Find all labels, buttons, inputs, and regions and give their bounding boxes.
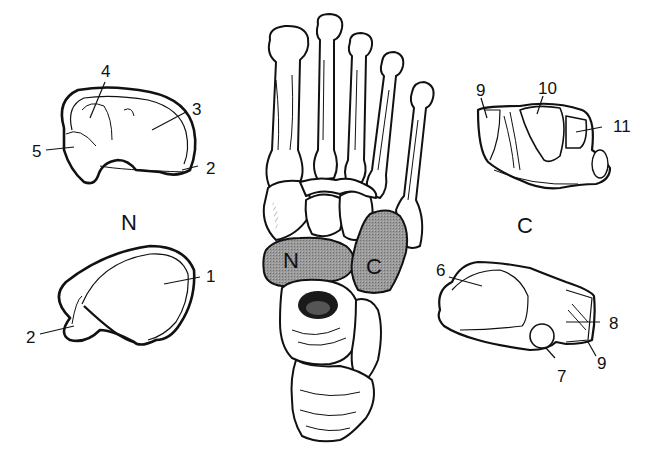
label-9-upper: 9	[476, 82, 485, 99]
cuboid-caption: C	[517, 215, 533, 237]
label-2-upper: 2	[206, 160, 215, 177]
anatomy-figure	[0, 0, 648, 463]
fourth-ray	[367, 52, 404, 198]
cuboid-lower-view	[439, 262, 595, 350]
label-3: 3	[192, 101, 201, 118]
label-5: 5	[32, 143, 41, 160]
first-ray	[266, 26, 308, 188]
label-6: 6	[436, 262, 445, 279]
navicular-lower-view	[59, 246, 194, 345]
label-2-lower: 2	[26, 329, 35, 346]
navicular-tag: N	[283, 250, 299, 272]
label-8: 8	[609, 315, 618, 332]
cuboid-tag: C	[366, 256, 382, 278]
second-ray	[314, 14, 342, 180]
label-4: 4	[101, 63, 110, 80]
third-ray	[345, 33, 372, 184]
label-10: 10	[538, 80, 557, 97]
label-9-lower: 9	[597, 355, 606, 372]
foot-skeleton	[263, 14, 433, 441]
navicular-upper-view	[62, 87, 195, 183]
label-1: 1	[206, 268, 215, 285]
label-7: 7	[557, 368, 566, 385]
cuboid-upper-view	[478, 104, 610, 189]
intermediate-cuneiform	[306, 194, 343, 236]
calcaneus	[292, 360, 375, 441]
label-11: 11	[613, 118, 631, 135]
navicular-caption: N	[121, 212, 137, 234]
